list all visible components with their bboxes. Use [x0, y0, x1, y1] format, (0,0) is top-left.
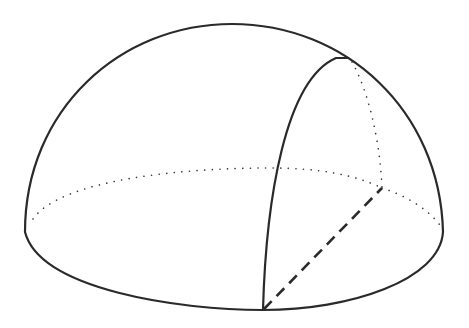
meridian-arc: [263, 58, 348, 310]
base-back-arc: [33, 168, 382, 219]
dome-outline: [25, 24, 443, 232]
base-radius: [264, 188, 382, 309]
base-front-arc: [25, 232, 443, 310]
base-back-right-segment: [382, 188, 442, 228]
hemisphere-diagram: [0, 0, 469, 328]
